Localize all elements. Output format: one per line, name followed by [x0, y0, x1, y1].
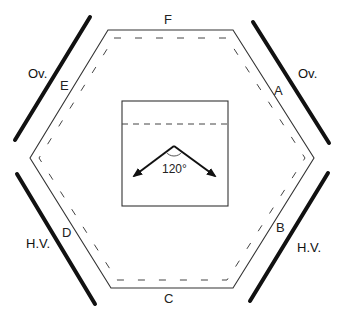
- bar-label-lower-left: H.V.: [26, 236, 50, 251]
- bar-label-upper-left: Ov.: [28, 66, 47, 81]
- side-label-c: C: [164, 291, 173, 306]
- side-label-e: E: [60, 78, 69, 93]
- side-label-d: D: [62, 225, 71, 240]
- inset-box: 120°: [122, 101, 228, 206]
- hexagon-diagram: F E A D B C Ov. Ov. H.V. H.V. 120°: [0, 0, 343, 318]
- bar-upper-right: [253, 22, 329, 143]
- side-label-a: A: [274, 83, 283, 98]
- inner-dashed-hexagon: [39, 38, 305, 280]
- side-label-f: F: [164, 12, 172, 27]
- outer-hexagon: [30, 30, 314, 288]
- side-label-b: B: [276, 220, 285, 235]
- bar-lower-right: [250, 173, 328, 301]
- angle-label: 120°: [162, 162, 187, 176]
- bar-label-upper-right: Ov.: [298, 66, 317, 81]
- angle-arc-icon: [166, 152, 182, 156]
- inset-frame: [122, 101, 228, 206]
- bar-label-lower-right: H.V.: [297, 240, 321, 255]
